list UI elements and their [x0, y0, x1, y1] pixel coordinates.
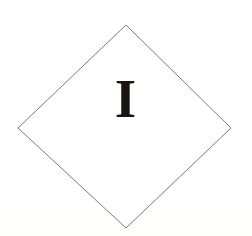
placard-canvas: I	[0, 0, 252, 236]
placard-symbol-letter: I	[0, 71, 252, 126]
